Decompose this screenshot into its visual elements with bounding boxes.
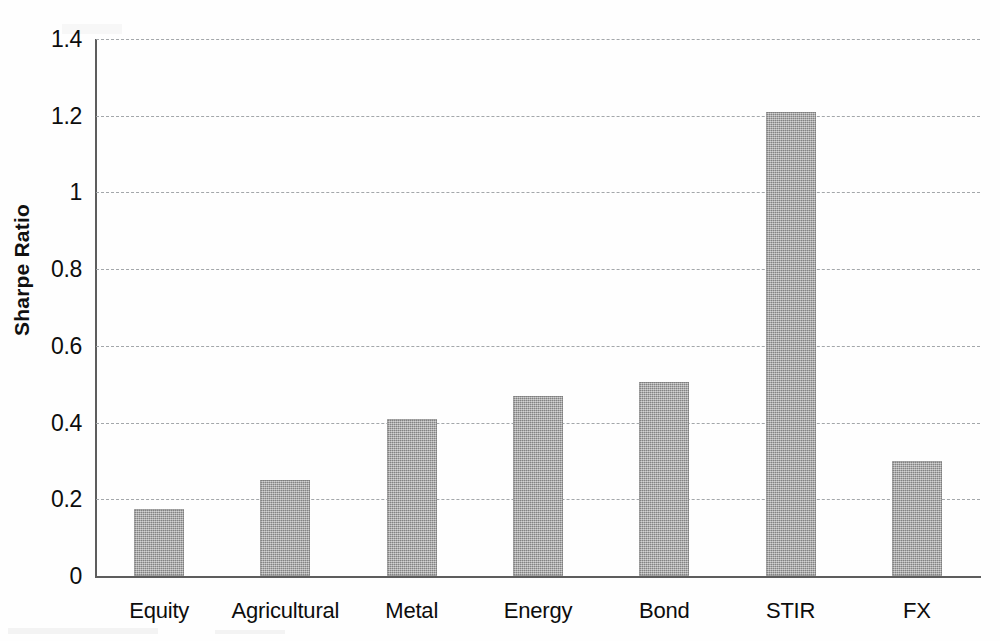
bar-stir bbox=[766, 112, 816, 576]
x-axis-tick-label: Bond bbox=[639, 598, 690, 624]
scan-artifact bbox=[215, 630, 285, 634]
bar-energy bbox=[513, 396, 563, 576]
x-axis-tick-label: Equity bbox=[129, 598, 189, 624]
x-axis-tick-label: Energy bbox=[504, 598, 573, 624]
bar-agricultural bbox=[260, 480, 310, 576]
y-axis-tick-label: 0 bbox=[70, 563, 83, 590]
bar-fx bbox=[892, 461, 942, 576]
bar-metal bbox=[387, 419, 437, 576]
gridline bbox=[96, 116, 980, 117]
gridline bbox=[96, 39, 980, 40]
bar-bond bbox=[639, 382, 689, 576]
y-axis-title: Sharpe Ratio bbox=[10, 190, 34, 350]
y-axis-tick-label: 0.6 bbox=[51, 332, 82, 359]
y-axis-line bbox=[95, 39, 97, 577]
y-axis-tick-label: 1.4 bbox=[51, 26, 82, 53]
y-axis-tick-label: 1 bbox=[70, 179, 83, 206]
x-axis-tick-label: Agricultural bbox=[232, 598, 340, 624]
y-axis-tick-label: 0.2 bbox=[51, 486, 82, 513]
gridline bbox=[96, 346, 980, 347]
bar-chart-figure: Sharpe Ratio 00.20.40.60.811.21.4 Equity… bbox=[0, 0, 1000, 641]
gridline bbox=[96, 269, 980, 270]
bar-equity bbox=[134, 509, 184, 576]
x-axis-tick-label: FX bbox=[903, 598, 931, 624]
y-axis-tick-label: 1.2 bbox=[51, 102, 82, 129]
x-axis-tick-label: Metal bbox=[385, 598, 438, 624]
gridline bbox=[96, 192, 980, 193]
x-axis-tick-label: STIR bbox=[766, 598, 815, 624]
y-axis-tick-label: 0.4 bbox=[51, 409, 82, 436]
scan-artifact bbox=[8, 628, 158, 634]
plot-area: 00.20.40.60.811.21.4 EquityAgriculturalM… bbox=[96, 39, 980, 576]
y-axis-tick-label: 0.8 bbox=[51, 256, 82, 283]
x-axis-line bbox=[95, 576, 981, 578]
